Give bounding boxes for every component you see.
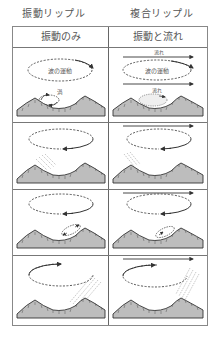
header-oscillation-and-flow: 振動と流れ — [109, 27, 207, 47]
header-oscillation-only: 振動のみ — [13, 27, 108, 47]
cell-r4-oscillation — [13, 256, 108, 326]
label-wave-motion-combined: 波の運動 — [145, 67, 169, 75]
cell-r1-oscillation-flow: 流れ 波の運動 流れ — [109, 48, 207, 122]
label-flow-top: 流れ — [154, 49, 164, 56]
label-flow-bottom: 流れ — [152, 87, 162, 94]
title-combined-ripple: 複合リップル — [130, 5, 193, 20]
cell-r2-oscillation — [13, 123, 108, 189]
cell-r3-oscillation-flow — [109, 190, 207, 255]
ripple-comparison-table: 振動のみ 振動と流れ 波の運動 渦 流れ 波の運動 — [12, 26, 208, 326]
cell-r3-oscillation — [13, 190, 108, 255]
title-oscillation-ripple: 振動リップル — [22, 5, 85, 20]
cell-r4-oscillation-flow — [109, 256, 207, 326]
label-wave-motion: 波の運動 — [48, 67, 72, 75]
cell-r2-oscillation-flow — [109, 123, 207, 189]
label-vortex: 渦 — [57, 88, 63, 95]
cell-r1-oscillation: 波の運動 渦 — [13, 48, 108, 122]
